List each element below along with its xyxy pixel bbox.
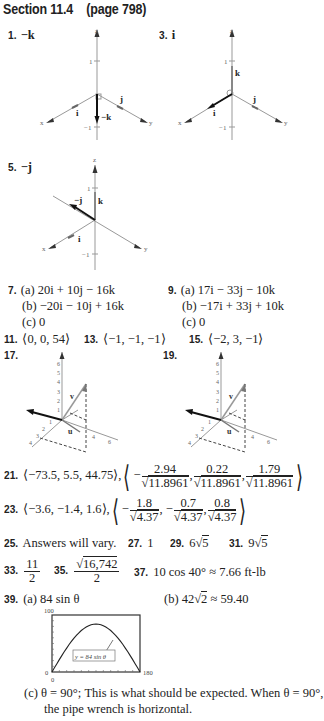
radicand: 16,742: [83, 556, 117, 571]
exercise-number: 15.: [189, 333, 203, 345]
page-reference: (page 798): [86, 1, 146, 17]
exercise-number: 3.: [159, 29, 167, 41]
exercise-number: 31.: [229, 537, 243, 549]
z-tick: 2: [216, 398, 219, 404]
exercise-number: 25.: [4, 537, 18, 549]
exercise-3-label: 3. i: [159, 28, 175, 43]
z-tick: 6: [57, 361, 60, 367]
z-tick: 1: [216, 407, 219, 413]
vector-label-u: u: [68, 427, 73, 436]
tick-label: 1: [89, 58, 93, 66]
y-tick: 4: [92, 434, 95, 440]
x-tick: 4: [188, 440, 191, 446]
tick-label: −1: [84, 124, 92, 132]
answer-27: 27. 1: [128, 536, 153, 551]
x-tick: 4: [29, 440, 32, 446]
x-tick: 1: [208, 419, 211, 425]
answer-23: 23. ⟨−3.6, −1.4, 1.6⟩,⟨−1.8√4.37, −0.7√4…: [4, 497, 249, 524]
answer-31: 31. 9√5: [229, 536, 268, 551]
exercise-number: 27.: [128, 537, 142, 549]
answer-vector: ⟨−3.6, −1.4, 1.6⟩,: [23, 502, 110, 516]
axis-label-x: x: [40, 119, 44, 127]
z-tick: 1: [57, 407, 60, 413]
axis-label-y: y: [149, 119, 153, 127]
exercise-answer: −k: [21, 28, 35, 42]
section-title: Section 11.4: [3, 1, 73, 17]
sine-graph: y = 84 sin θ 100 0 0 180: [0, 0, 1, 1]
x-tick: 3: [195, 433, 198, 439]
coefficient: 9: [248, 536, 254, 550]
tick-label: −1: [219, 124, 227, 132]
answer-part-a: (a) 17i − 33j − 10k: [181, 283, 275, 297]
answer-part-c: (c) 0: [168, 315, 205, 329]
exercise-number: 5.: [8, 161, 16, 173]
answer-part-b: (b) −17i + 33j + 10k: [168, 299, 284, 313]
coefficient: 6: [189, 536, 195, 550]
z-tick: 5: [57, 370, 60, 376]
z-tick: 3: [57, 389, 60, 395]
x-max-label: 180: [143, 669, 153, 676]
tick-label: 1: [224, 58, 228, 66]
exercise-number: 21.: [4, 469, 18, 481]
section-header: Section 11.4 (page 798): [3, 1, 146, 17]
x-tick: 2: [42, 426, 45, 432]
x-min-label: 0: [51, 676, 54, 683]
vector-label-v: v: [229, 392, 233, 401]
fraction: 1.79√11.8961: [246, 463, 293, 490]
denominator: 4.37: [181, 509, 203, 524]
exercise-number: 17.: [4, 349, 18, 361]
y-min-label: 0: [45, 669, 48, 676]
answer-part-a: (a) 20i + 10j − 16k: [21, 283, 115, 297]
exercise-number: 39.: [4, 593, 18, 605]
vector-label-k: k: [235, 68, 240, 78]
exercise-19-label: 19.: [163, 348, 179, 363]
answer-33: 33. 112: [4, 558, 41, 585]
answer-7: 7. (a) 20i + 10j − 16k (b) −20i − 10j + …: [8, 282, 124, 330]
axis-label-x: x: [42, 245, 46, 253]
axis-label-y: y: [284, 119, 288, 127]
fraction: 0.8√4.37: [208, 497, 237, 524]
y-tick: 6: [267, 439, 270, 445]
answer-15: 15. ⟨−2, 3, −1⟩: [189, 331, 263, 347]
fraction: 112: [24, 558, 40, 585]
fraction: 1.8√4.37: [130, 497, 159, 524]
denominator: 11.8961: [148, 475, 188, 490]
axis-label-z: z: [230, 27, 233, 35]
answer-29: 29. 6√5: [170, 536, 209, 551]
exercise-number: 7.: [8, 282, 16, 298]
approximation: ≈ 59.40: [210, 592, 248, 606]
vector-label-k: k: [98, 196, 103, 206]
exercise-number: 23.: [4, 503, 18, 515]
exercise-number: 35.: [54, 564, 68, 576]
answer-text: 1: [147, 536, 153, 550]
exercise-number: 19.: [163, 349, 177, 361]
x-tick: 3: [36, 433, 39, 439]
denominator: 2: [74, 572, 119, 585]
z-tick: 5: [216, 370, 219, 376]
exercise-answer: i: [172, 28, 175, 42]
numerator: 11: [24, 558, 40, 572]
exercise-number: 13.: [84, 333, 98, 345]
answer-39c-line1: (c) θ = 90°; This is what should be expe…: [24, 686, 323, 701]
exercise-number: 33.: [4, 564, 18, 576]
z-tick: 4: [216, 379, 219, 385]
vector-label-i: i: [76, 108, 79, 118]
y-max-label: 100: [44, 607, 54, 614]
exercise-number: 1.: [8, 29, 16, 41]
y-tick: 6: [108, 439, 111, 445]
z-tick: 3: [216, 389, 219, 395]
exercise-17-label: 17.: [4, 348, 20, 363]
exercise-number: 29.: [170, 537, 184, 549]
answer-text: ⟨−1, −1, −1⟩: [103, 332, 165, 346]
answer-13: 13. ⟨−1, −1, −1⟩: [84, 331, 166, 347]
radicand: 5: [261, 535, 267, 550]
radicand: 5: [202, 535, 208, 550]
answer-39c-line2: the pipe wrench is horizontal.: [44, 702, 192, 717]
answer-part-b: (b) 42: [164, 592, 194, 606]
fraction: 0.22√11.8961: [194, 463, 241, 490]
z-tick: 4: [57, 379, 60, 385]
answer-21: 21. ⟨−73.5, 5.5, 44.75⟩,⟨−2.94√11.8961,0…: [4, 463, 306, 490]
axis-label-y: y: [144, 245, 148, 253]
radicand: 2: [201, 591, 207, 606]
axis-label-z: z: [95, 27, 98, 35]
